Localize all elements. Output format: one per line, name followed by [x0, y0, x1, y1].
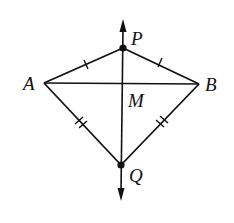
segment-pb — [123, 48, 199, 84]
arrowhead-down-icon — [118, 188, 125, 201]
point-p-dot — [119, 44, 126, 51]
label-m: M — [127, 90, 145, 111]
label-a: A — [21, 73, 35, 94]
kite-diagram: P A B M Q — [0, 0, 234, 223]
arrowhead-up-icon — [120, 19, 127, 32]
segment-ab — [44, 83, 199, 84]
diagram-canvas: P A B M Q — [0, 0, 234, 223]
label-p: P — [130, 28, 143, 49]
point-q-dot — [117, 161, 124, 168]
label-b: B — [205, 74, 217, 95]
segment-ap — [44, 48, 123, 83]
segment-aq — [44, 83, 121, 165]
label-q: Q — [129, 165, 143, 186]
